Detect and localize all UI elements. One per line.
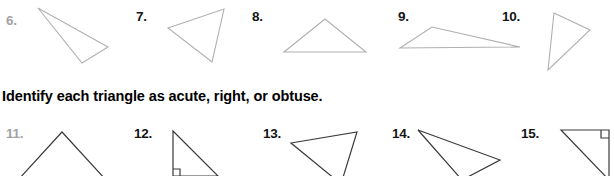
worksheet-page: 6. 7. 8. 9. 10. bbox=[0, 0, 614, 176]
problem-row-top: 6. 7. 8. 9. 10. bbox=[0, 0, 614, 80]
problem-15: 15. bbox=[480, 118, 614, 176]
problem-row-bottom: 11. 12. 13. 14. bbox=[0, 118, 614, 176]
triangle-figure-15 bbox=[0, 118, 614, 176]
problem-10: 10. bbox=[480, 0, 614, 80]
right-angle-marker-15 bbox=[601, 130, 609, 138]
triangle-figure-10 bbox=[0, 0, 614, 80]
instruction-text: Identify each triangle as acute, right, … bbox=[2, 88, 323, 104]
